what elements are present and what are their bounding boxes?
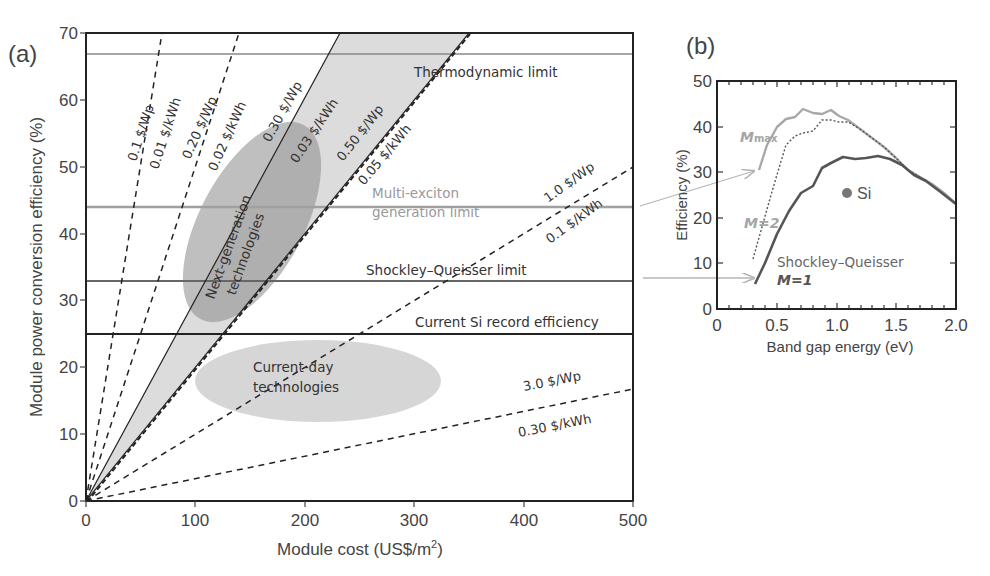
svg-text:10: 10 (693, 254, 712, 273)
svg-text:300: 300 (400, 511, 428, 530)
svg-text:10: 10 (59, 425, 78, 444)
multi-exciton-limit-label-2: generation limit (372, 204, 479, 220)
panel-a-y-tick-labels: 0 10 20 30 40 50 60 70 (59, 24, 78, 511)
panel-a-y-axis-label: Module power conversion efficiency (%) (27, 117, 46, 417)
svg-text:70: 70 (59, 24, 78, 43)
panel-b-y-axis-label: Efficiency (%) (673, 149, 690, 240)
svg-text:0: 0 (712, 316, 721, 335)
shockley-queisser-label: Shockley–Queisser (777, 254, 904, 270)
si-point (842, 188, 852, 198)
svg-text:50: 50 (59, 158, 78, 177)
si-label: Si (857, 185, 871, 202)
m1-label: M=1 (777, 272, 812, 288)
svg-text:0: 0 (81, 511, 90, 530)
svg-text:30: 30 (693, 163, 712, 182)
thermodynamic-limit-label: Thermodynamic limit (413, 64, 558, 80)
si-record-label: Current Si record efficiency (415, 314, 599, 330)
figure: (a) (0, 0, 990, 576)
current-day-label-2: technologies (253, 379, 339, 395)
label-3.0-wp: 3.0 $/Wp (522, 368, 582, 394)
label-1.0-wp: 1.0 $/Wp (541, 159, 597, 206)
m2-label: M=2 (744, 215, 779, 231)
svg-text:40: 40 (59, 225, 78, 244)
panel-a-x-axis-label: Module cost (US$/m2) (277, 538, 443, 559)
svg-text:2.0: 2.0 (944, 316, 968, 335)
svg-text:40: 40 (693, 118, 712, 137)
panel-b-x-axis-label: Band gap energy (eV) (767, 338, 914, 355)
svg-text:100: 100 (181, 511, 209, 530)
panel-a-label: (a) (8, 40, 37, 67)
shockley-queisser-limit-label: Shockley–Queisser limit (366, 262, 527, 278)
multi-exciton-limit-label-1: Multi-exciton (372, 185, 459, 201)
svg-text:0.5: 0.5 (765, 316, 789, 335)
panel-b-y-ticks (717, 127, 956, 263)
panel-b-y-tick-labels: 0 10 20 30 40 50 (693, 72, 712, 319)
svg-text:50: 50 (693, 72, 712, 91)
svg-text:0: 0 (69, 492, 78, 511)
svg-text:20: 20 (59, 358, 78, 377)
panel-b-x-tick-labels: 0 0.5 1.0 1.5 2.0 (712, 316, 968, 335)
m2-curve (753, 120, 920, 259)
panel-b: (b) (673, 32, 968, 355)
label-0.30-kwh: 0.30 $/kWh (517, 411, 593, 440)
svg-text:200: 200 (291, 511, 319, 530)
panel-b-label: (b) (686, 32, 715, 59)
svg-text:1.0: 1.0 (825, 316, 849, 335)
current-day-label-1: Current-day (253, 359, 333, 375)
svg-text:400: 400 (510, 511, 538, 530)
svg-text:500: 500 (619, 511, 647, 530)
svg-text:20: 20 (693, 209, 712, 228)
mmax-label: Mmax (740, 129, 778, 145)
panel-a-x-tick-labels: 0 100 200 300 400 500 (81, 511, 647, 530)
panel-a: (a) (8, 24, 647, 559)
svg-text:60: 60 (59, 91, 78, 110)
svg-text:0: 0 (703, 300, 712, 319)
svg-text:1.5: 1.5 (884, 316, 908, 335)
svg-text:30: 30 (59, 291, 78, 310)
